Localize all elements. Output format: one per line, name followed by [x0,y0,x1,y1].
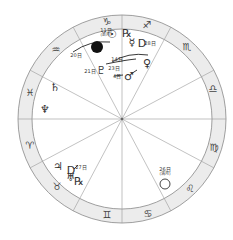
new-moon-date-subtext: (新月) [100,33,111,37]
full-moon-icon [160,179,171,190]
leo-sign-icon: ♌ [186,184,195,194]
venus-icon: ♀ [143,58,151,69]
neptune-icon: ♆ [40,104,50,115]
pluto-date-text: 21日 [84,68,95,74]
pluto-date: 21日 [84,69,95,74]
aries-sign-icon: ♈ [26,141,35,151]
sagittarius-sign-icon: ♐ [143,20,152,30]
mars-date-b: 4日 [113,74,121,79]
aquarius-sign-icon: ♒ [52,45,61,55]
libra-sign-icon: ♎ [209,84,218,94]
taurus-sign-icon: ♉ [53,182,62,192]
virgo-sign-icon: ♍ [210,143,219,153]
gemini-sign-icon: ♊ [103,210,112,220]
new-moon-icon [91,41,103,53]
uranus-retrograde-mark-icon: ℞ [74,176,84,187]
full-moon-date: 26日(満月) [159,167,170,176]
capricorn-sign-icon: ♑ [103,17,112,27]
mars-date-a: 23日 [108,66,119,71]
mercury-retrograde-mark-icon: ℞ [122,28,132,39]
uranus-station-icon: D [67,165,75,176]
new-moon-date: 11日(新月) [100,28,111,37]
center-point [121,118,124,121]
mars-date-b-text: 4日 [113,73,121,79]
full-moon-date-subtext: (満月) [159,172,170,176]
mercury-station-date: 28日 [144,41,155,46]
venus-ingress-date-text: 14日 [111,56,122,62]
pluto-icon: ♇ [96,65,106,76]
jupiter-icon: ♃ [53,161,63,172]
saturn-icon: ♄ [50,82,60,93]
uranus-station-date-text: 27日 [75,164,86,170]
sun-ingress-date: 20日 [70,53,81,58]
cancer-sign-icon: ♋ [144,209,153,219]
sun-ingress-date-text: 20日 [70,52,81,58]
uranus-station-date: 27日 [75,165,86,170]
scorpio-sign-icon: ♏ [183,42,192,52]
mars-date-a-text: 23日 [108,65,119,71]
venus-ingress-date: 14日 [111,57,122,62]
pisces-sign-icon: ♓ [26,88,35,98]
mars-icon: ♂ [124,71,134,82]
mercury-station-date-text: 28日 [144,40,155,46]
